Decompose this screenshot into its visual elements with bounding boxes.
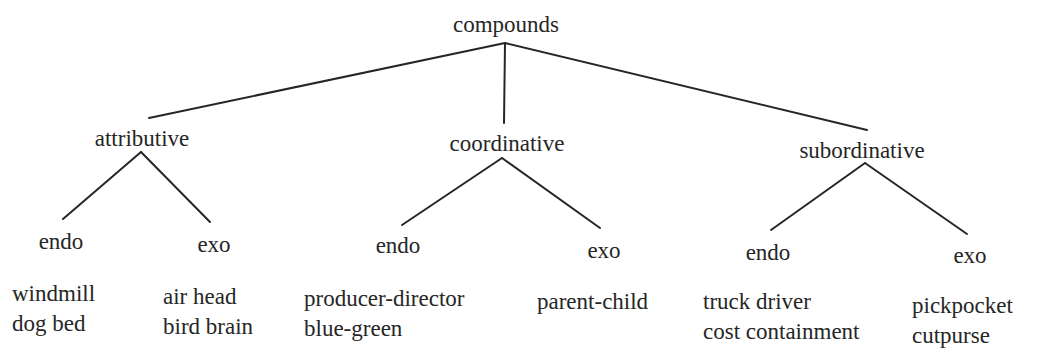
- edge-root-coordinative: [504, 43, 505, 123]
- root-node: compounds: [453, 13, 559, 36]
- example-item: cutpurse: [912, 321, 1013, 351]
- coordinative-endo-examples: producer-director blue-green: [304, 284, 464, 344]
- subordinative-exo-node: exo: [953, 244, 986, 267]
- attributive-exo-node: exo: [197, 233, 230, 256]
- example-item: cost containment: [703, 317, 860, 347]
- example-item: pickpocket: [912, 291, 1013, 321]
- example-item: air head: [163, 282, 253, 312]
- attributive-endo-node: endo: [39, 230, 84, 253]
- edge-attributive-exo: [141, 152, 210, 222]
- subordinative-endo-node: endo: [746, 241, 791, 264]
- edge-coordinative-endo: [402, 158, 502, 225]
- edge-subordinative-exo: [865, 163, 967, 234]
- subordinative-endo-examples: truck driver cost containment: [703, 287, 860, 347]
- coordinative-exo-node: exo: [587, 239, 620, 262]
- example-item: producer-director: [304, 284, 464, 314]
- example-item: blue-green: [304, 314, 464, 344]
- category-attributive: attributive: [95, 127, 190, 150]
- example-item: parent-child: [537, 287, 648, 317]
- example-item: windmill: [12, 279, 95, 309]
- category-subordinative: subordinative: [799, 139, 924, 162]
- example-item: bird brain: [163, 312, 253, 342]
- example-item: truck driver: [703, 287, 860, 317]
- edge-coordinative-exo: [502, 158, 600, 228]
- coordinative-exo-examples: parent-child: [537, 287, 648, 317]
- edge-root-subordinative: [505, 43, 867, 130]
- edge-root-attributive: [149, 43, 505, 118]
- attributive-exo-examples: air head bird brain: [163, 282, 253, 342]
- category-coordinative: coordinative: [450, 132, 565, 155]
- tree-edges: [0, 0, 1050, 361]
- coordinative-endo-node: endo: [376, 234, 421, 257]
- attributive-endo-examples: windmill dog bed: [12, 279, 95, 339]
- edge-attributive-endo: [63, 152, 141, 219]
- subordinative-exo-examples: pickpocket cutpurse: [912, 291, 1013, 351]
- example-item: dog bed: [12, 309, 95, 339]
- edge-subordinative-endo: [771, 163, 865, 230]
